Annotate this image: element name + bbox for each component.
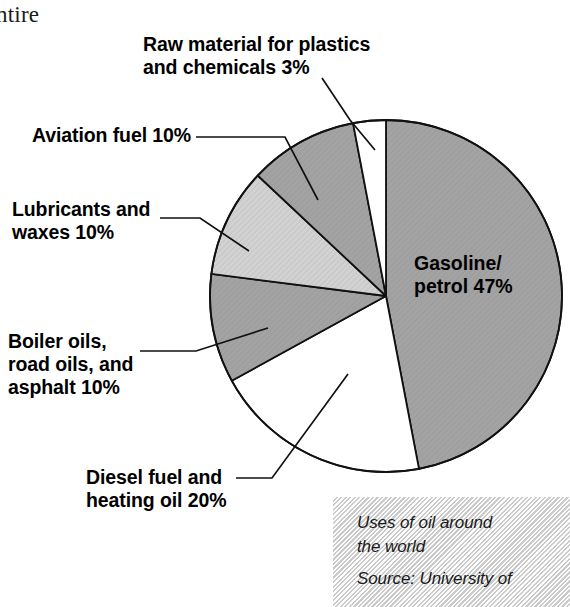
slice-label-lubricants: Lubricants and waxes 10% [12, 198, 150, 244]
slice-label-aviation-fuel: Aviation fuel 10% [32, 124, 191, 147]
caption-box: Uses of oil around the world Source: Uni… [333, 497, 570, 607]
slice-label-gasoline: Gasoline/ petrol 47% [414, 252, 513, 298]
caption-title: Uses of oil around the world [357, 511, 566, 559]
figure-root: ntire Raw material for p [0, 0, 570, 607]
slice-label-boiler-oils: Boiler oils, road oils, and asphalt 10% [8, 330, 133, 399]
caption-source: Source: University of [357, 567, 566, 591]
slice-label-raw-material: Raw material for plastics and chemicals … [143, 33, 370, 79]
slice-label-diesel-fuel: Diesel fuel and heating oil 20% [86, 466, 226, 512]
